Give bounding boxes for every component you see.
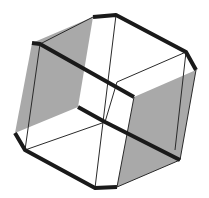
thin-5 xyxy=(25,122,105,150)
top-back-edge xyxy=(93,15,196,70)
thin-3 xyxy=(117,52,186,82)
left-face xyxy=(15,17,93,133)
polyhedron-diagram xyxy=(0,0,209,198)
right-face xyxy=(117,70,196,187)
bottom-left-edge xyxy=(15,133,117,188)
thin-2 xyxy=(95,15,116,188)
